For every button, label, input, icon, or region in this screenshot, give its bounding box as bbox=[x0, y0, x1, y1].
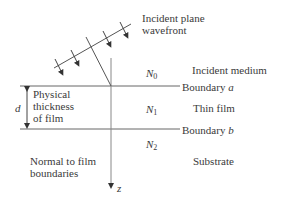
boundary-b-label: Boundary b bbox=[182, 124, 234, 136]
substrate-label: Substrate bbox=[193, 155, 234, 167]
thickness-symbol: d bbox=[15, 102, 21, 114]
normal-label: Normal to film boundaries bbox=[30, 155, 96, 179]
incident-ray bbox=[86, 37, 111, 86]
n2-label: N2 bbox=[146, 138, 157, 154]
thin-film-label: Thin film bbox=[193, 102, 235, 114]
incident-medium-label: Incident medium bbox=[192, 64, 267, 76]
z-axis-label: z bbox=[117, 182, 121, 194]
wavefront-label: Incident plane wavefront bbox=[142, 12, 205, 36]
boundary-a-label: Boundary a bbox=[182, 81, 234, 93]
wavefront-line bbox=[54, 24, 131, 68]
thickness-label: Physical thickness of film bbox=[33, 88, 74, 124]
n0-label: N0 bbox=[146, 67, 157, 83]
n1-label: N1 bbox=[146, 103, 157, 119]
